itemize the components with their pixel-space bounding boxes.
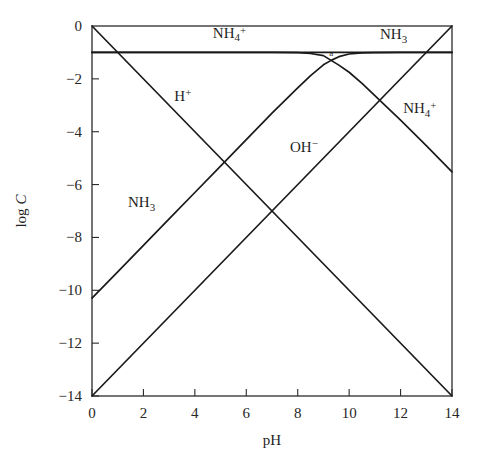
y-tick-label: 0 <box>75 18 83 34</box>
y-axis-title: logC <box>13 193 29 227</box>
log-concentration-diagram: a 02468101214 0−2−4−6−8−10−12−14 NH4+NH3… <box>0 0 481 458</box>
x-tick-label: 0 <box>88 405 96 421</box>
x-tick-label: 12 <box>393 405 408 421</box>
system-point-marker: a <box>329 48 333 58</box>
chart-page: a 02468101214 0−2−4−6−8−10−12−14 NH4+NH3… <box>0 0 481 458</box>
x-tick-label: 2 <box>140 405 148 421</box>
x-axis-title: pH <box>263 432 282 448</box>
x-tick-label: 8 <box>294 405 302 421</box>
y-tick-label: −4 <box>66 124 82 140</box>
y-tick-label: −12 <box>59 335 82 351</box>
y-tick-label: −6 <box>66 177 82 193</box>
x-tick-label: 4 <box>191 405 199 421</box>
x-tick-label: 6 <box>243 405 251 421</box>
x-tick-label: 14 <box>445 405 461 421</box>
y-axis-title-text: logC <box>13 193 29 227</box>
x-tick-label: 10 <box>342 405 357 421</box>
y-tick-label: −8 <box>66 229 82 245</box>
y-tick-label: −10 <box>59 282 82 298</box>
system-point-label: a <box>329 48 333 58</box>
y-tick-label: −2 <box>66 71 82 87</box>
y-tick-label: −14 <box>59 388 83 404</box>
